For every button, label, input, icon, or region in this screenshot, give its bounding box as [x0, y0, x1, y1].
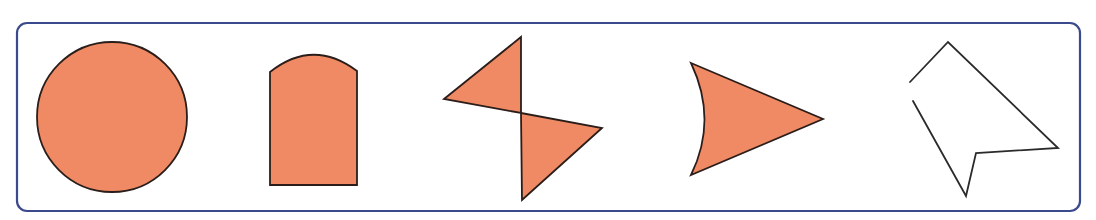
shape-2-arched-rectangle: [270, 55, 357, 185]
shape-1-circle: [37, 42, 187, 192]
shapes-figure: [0, 0, 1096, 220]
